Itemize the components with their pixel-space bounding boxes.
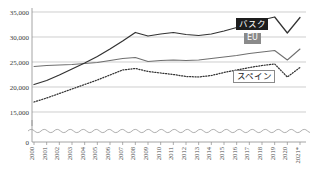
x-tick-label: 2014 — [205, 146, 212, 160]
series-label-spain: スペイン — [233, 70, 275, 83]
x-tick-label: 2019 — [269, 146, 276, 160]
y-tick-30000: 30,000 — [10, 34, 30, 42]
x-tick-label: 2001 — [41, 147, 48, 160]
x-tick-label: 2011 — [167, 147, 174, 160]
x-tick-label: 2005 — [91, 146, 98, 160]
x-tick-label: 2007 — [117, 146, 124, 160]
x-tick-label: 2000 — [28, 146, 35, 160]
x-tick-label: 2008 — [129, 146, 136, 160]
chart-container: 35,000 30,000 25,000 20,000 15,000 0 200… — [0, 0, 310, 172]
x-axis-ticks — [34, 142, 300, 145]
x-axis-labels: 2000200120022003200420052006200720082009… — [28, 146, 301, 163]
x-tick-label: 2009 — [142, 146, 149, 160]
x-tick-label: 2012 — [180, 147, 187, 160]
axis-break-wave — [28, 129, 310, 132]
x-tick-label: 2006 — [104, 146, 111, 160]
x-tick-label: 2016 — [231, 146, 238, 160]
x-tick-label: 2003 — [66, 146, 73, 160]
x-tick-label: 2021* — [294, 147, 301, 163]
x-tick-label: 2010 — [155, 146, 162, 160]
x-tick-label: 2018 — [256, 146, 263, 160]
x-tick-label: 2015 — [218, 146, 225, 160]
x-tick-label: 2020 — [281, 146, 288, 160]
y-tick-35000: 35,000 — [10, 9, 30, 17]
y-tick-15000: 15,000 — [10, 109, 30, 117]
y-tick-25000: 25,000 — [10, 59, 30, 67]
y-axis-labels: 35,000 30,000 25,000 20,000 15,000 0 — [10, 9, 30, 148]
x-tick-label: 2002 — [53, 147, 60, 160]
x-tick-label: 2013 — [193, 146, 200, 160]
series-line-eu — [34, 49, 300, 67]
series-label-basque: バスク — [236, 18, 268, 30]
x-tick-label: 2004 — [79, 146, 86, 160]
series-label-eu: EU — [244, 33, 261, 44]
y-tick-0: 0 — [26, 139, 30, 147]
y-tick-20000: 20,000 — [10, 84, 30, 92]
x-tick-label: 2017 — [243, 146, 250, 160]
